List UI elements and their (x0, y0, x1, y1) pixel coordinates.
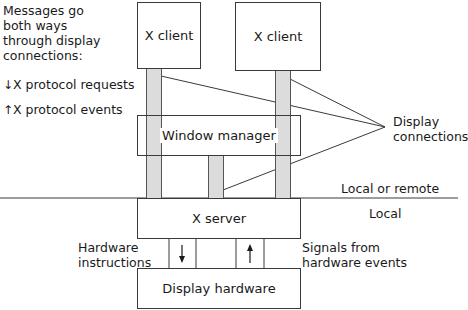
display-hardware-box: Display hardware (137, 268, 301, 309)
x-server-box: X server (137, 198, 301, 239)
hardware-instructions-label: Hardware instructions (78, 240, 151, 270)
local-or-remote-label: Local or remote (341, 181, 439, 196)
display-connection-wm (208, 155, 224, 198)
signals-from-hardware-label: Signals from hardware events (302, 240, 407, 270)
x-client-left-box: X client (137, 2, 201, 69)
x-client-right-box: X client (235, 2, 321, 71)
window-manager-box: Window manager (137, 115, 301, 156)
local-label: Local (369, 206, 401, 221)
display-connections-label: Display connections (393, 114, 468, 144)
